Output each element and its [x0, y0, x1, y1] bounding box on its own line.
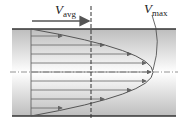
v-avg-subscript: avg [63, 9, 76, 19]
v-max-symbol: V [144, 1, 152, 16]
pipe-flow-figure [0, 0, 183, 127]
v-avg-symbol: V [55, 2, 63, 17]
v-max-label: Vmax [144, 2, 167, 18]
v-avg-label: Vavg [55, 3, 76, 19]
v-max-subscript: max [152, 8, 168, 18]
